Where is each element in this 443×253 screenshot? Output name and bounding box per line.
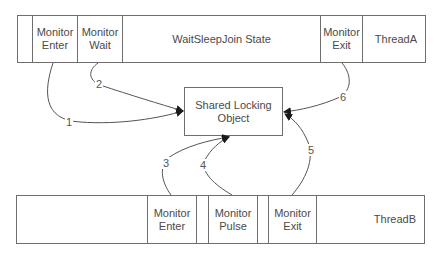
arrow-4 xyxy=(204,137,232,195)
thread-b-monitor-pulse: Monitor Pulse xyxy=(209,196,258,243)
thread-a-label: ThreadA xyxy=(363,16,425,62)
arrow-4-label: 4 xyxy=(199,159,207,171)
arrow-3-label: 3 xyxy=(162,157,170,169)
arrow-1-label: 1 xyxy=(65,116,73,128)
thread-a-spacer-cell xyxy=(18,16,33,62)
thread-a-waitsleepjoin-state: WaitSleepJoin State xyxy=(123,16,321,62)
arrow-6 xyxy=(284,63,349,112)
thread-a-monitor-exit: Monitor Exit xyxy=(321,16,363,62)
thread-b-label: ThreadB xyxy=(317,196,424,243)
arrow-6-label: 6 xyxy=(339,91,347,103)
arrow-5-label: 5 xyxy=(307,144,315,156)
arrow-2 xyxy=(91,63,183,111)
thread-b-lane: Monitor Enter Monitor Pulse Monitor Exit… xyxy=(16,195,425,244)
arrow-3 xyxy=(162,137,229,195)
thread-b-spacer-cell xyxy=(17,196,148,243)
thread-a-monitor-wait: Monitor Wait xyxy=(78,16,123,62)
shared-locking-object: Shared Locking Object xyxy=(184,87,283,136)
thread-b-gap-cell xyxy=(197,196,209,243)
arrow-2-label: 2 xyxy=(95,78,103,90)
thread-b-gap-cell xyxy=(258,196,269,243)
thread-b-monitor-enter: Monitor Enter xyxy=(148,196,197,243)
thread-a-monitor-enter: Monitor Enter xyxy=(33,16,78,62)
arrow-1 xyxy=(48,63,183,123)
thread-a-lane: Monitor Enter Monitor Wait WaitSleepJoin… xyxy=(17,15,426,63)
thread-b-monitor-exit: Monitor Exit xyxy=(269,196,317,243)
